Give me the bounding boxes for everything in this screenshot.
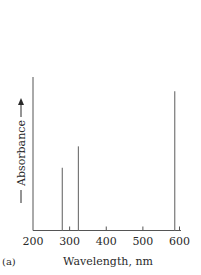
y-axis-label: Absorbance (15, 120, 28, 187)
spectrum-lines (62, 91, 174, 230)
axes (33, 77, 181, 231)
x-tick-label-300: 300 (59, 235, 80, 248)
x-ticks (70, 227, 180, 231)
x-tick-labels: 200300400500600 (23, 235, 191, 248)
x-tick-label-400: 400 (96, 235, 117, 248)
x-tick-label-600: 600 (169, 235, 190, 248)
absorbance-spectrum-chart: 200300400500600 Wavelength, nm (a) Absor… (0, 0, 201, 275)
y-axis-label-group: Absorbance (15, 98, 28, 203)
arrow-up-icon (18, 98, 24, 105)
x-tick-label-500: 500 (132, 235, 153, 248)
x-tick-label-200: 200 (23, 235, 44, 248)
panel-label: (a) (2, 256, 16, 267)
x-axis-label: Wavelength, nm (63, 255, 153, 268)
